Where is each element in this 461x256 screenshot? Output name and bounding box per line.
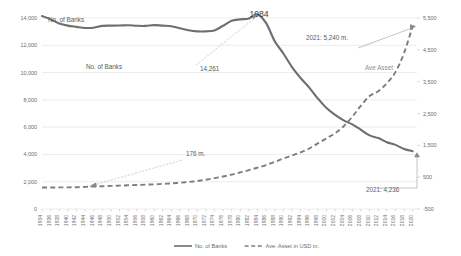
y2-axis-tick-500: 500	[423, 174, 432, 180]
y-axis-tick-2,000: 2,000	[24, 179, 38, 185]
x-axis-tick-1948: 1948	[97, 215, 103, 226]
series-line-2	[42, 26, 413, 187]
arrowhead-asset-end	[410, 24, 416, 30]
x-axis-tick-1974: 1974	[209, 215, 215, 226]
y2-axis-tick--500: -500	[423, 206, 434, 212]
chart-canvas: 02,0004,0006,0008,00010,00012,00014,000-…	[0, 0, 461, 256]
x-axis-tick-1990: 1990	[278, 215, 284, 226]
x-axis-tick-1972: 1972	[201, 215, 207, 226]
x-axis-tick-1940: 1940	[63, 215, 69, 226]
x-axis-tick-1986: 1986	[261, 215, 267, 226]
x-axis-tick-1954: 1954	[123, 215, 129, 226]
x-axis-tick-1984: 1984	[253, 215, 259, 226]
x-axis-tick-1962: 1962	[158, 215, 164, 226]
annotation-asset-end-value: 2021: 5,240 m.	[306, 34, 348, 41]
leader-asset-end	[358, 27, 414, 48]
annotation-asset-start-value: 176 m.	[186, 150, 206, 157]
x-axis-tick-1980: 1980	[235, 215, 241, 226]
x-axis-tick-1956: 1956	[132, 215, 138, 226]
y-axis-tick-12,000: 12,000	[21, 42, 38, 48]
legend-label-1: No. of Banks	[195, 243, 227, 249]
x-axis-tick-1970: 1970	[192, 215, 198, 226]
x-axis-tick-2002: 2002	[330, 215, 336, 226]
x-axis-tick-2006: 2006	[347, 215, 353, 226]
x-axis-tick-1960: 1960	[149, 215, 155, 226]
y-axis-tick-14,000: 14,000	[21, 15, 38, 21]
x-axis-tick-2020: 2020	[408, 215, 414, 226]
x-axis-tick-1946: 1946	[89, 215, 95, 226]
y2-axis-tick-3,500: 3,500	[423, 79, 437, 85]
x-axis-tick-1942: 1942	[71, 215, 77, 226]
x-axis-tick-1950: 1950	[106, 215, 112, 226]
arrowhead-banks-end	[414, 152, 420, 157]
x-axis-tick-1996: 1996	[304, 215, 310, 226]
x-axis-tick-1992: 1992	[287, 215, 293, 226]
annotation-peak-year: 1984	[249, 9, 268, 19]
y-axis-tick-8,000: 8,000	[24, 97, 38, 103]
x-axis-tick-1998: 1998	[313, 215, 319, 226]
x-axis-tick-2014: 2014	[382, 215, 388, 226]
y2-axis-tick-2,500: 2,500	[423, 111, 437, 117]
x-axis-tick-1966: 1966	[175, 215, 181, 226]
annotation-peak-value: 14,261	[200, 65, 220, 72]
series-line-1	[42, 14, 413, 151]
x-axis-tick-1952: 1952	[115, 215, 121, 226]
y-axis-tick-0: 0	[34, 206, 37, 212]
x-axis-tick-2000: 2000	[321, 215, 327, 226]
annotation-banks-end-value: 2021: 4,236	[366, 186, 400, 193]
y2-axis-tick-5,500: 5,500	[423, 15, 437, 21]
series-inline-label-top: No. of Banks	[48, 16, 84, 23]
x-axis-tick-1944: 1944	[80, 215, 86, 226]
x-axis-tick-1988: 1988	[270, 215, 276, 226]
x-axis-tick-1938: 1938	[54, 215, 60, 226]
y2-axis-tick-1,500: 1,500	[423, 142, 437, 148]
x-axis-tick-2012: 2012	[373, 215, 379, 226]
x-axis-tick-2004: 2004	[339, 215, 345, 226]
y-axis-tick-4,000: 4,000	[24, 151, 38, 157]
x-axis-tick-1982: 1982	[244, 215, 250, 226]
x-axis-tick-1968: 1968	[184, 215, 190, 226]
x-axis-tick-1978: 1978	[227, 215, 233, 226]
y-axis-tick-6,000: 6,000	[24, 124, 38, 130]
y-axis-tick-10,000: 10,000	[21, 70, 38, 76]
series-inline-label-asset: Ave Asset	[365, 64, 393, 71]
x-axis-tick-2010: 2010	[365, 215, 371, 226]
x-axis-tick-1994: 1994	[296, 215, 302, 226]
x-axis-tick-1934: 1934	[37, 215, 43, 226]
series-inline-label-mid: No. of Banks	[86, 63, 122, 70]
legend-label-2: Ave. Asset in USD m.	[266, 243, 320, 249]
arrowhead-asset-start	[89, 182, 97, 186]
x-axis-tick-2016: 2016	[390, 215, 396, 226]
x-axis-tick-1964: 1964	[166, 215, 172, 226]
bank-consolidation-chart: 02,0004,0006,0008,00010,00012,00014,000-…	[0, 0, 461, 256]
x-axis-tick-2008: 2008	[356, 215, 362, 226]
x-axis-tick-2018: 2018	[399, 215, 405, 226]
x-axis-tick-1958: 1958	[140, 215, 146, 226]
x-axis-tick-1936: 1936	[46, 215, 52, 226]
y2-axis-tick-4,500: 4,500	[423, 47, 437, 53]
x-axis-tick-1976: 1976	[218, 215, 224, 226]
